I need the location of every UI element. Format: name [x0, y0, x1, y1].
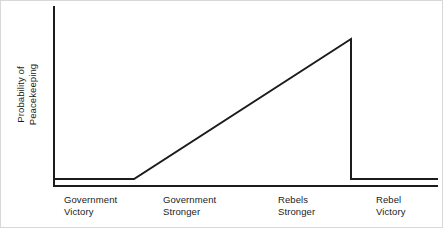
peacekeeping-probability-line [54, 39, 438, 179]
chart-plot-area [1, 1, 443, 228]
chart-figure: Probability of Peacekeeping Government V… [0, 0, 443, 228]
